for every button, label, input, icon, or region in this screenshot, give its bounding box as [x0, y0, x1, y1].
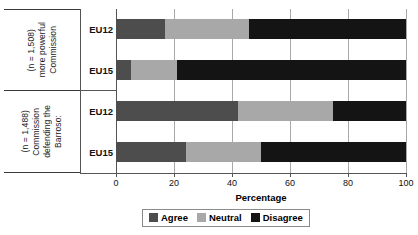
- legend-item-agree[interactable]: Agree: [149, 212, 188, 223]
- bar-segment-disagree: [177, 60, 406, 80]
- group-label-line: Barroso:: [53, 115, 64, 148]
- x-tick-label-80: 80: [343, 178, 353, 188]
- group-label-commission-more-powerful: Commission more powerful (n = 1,508): [4, 10, 80, 91]
- bar-segment-agree: [116, 60, 131, 80]
- group-label-axis: Commission more powerful (n = 1,508) Bar…: [4, 9, 80, 173]
- bar-segment-neutral: [238, 101, 334, 121]
- group-label-line: (n = 1,508): [26, 29, 37, 71]
- category-tick-label-0: EU12: [80, 24, 113, 35]
- bar-eu15-1: [116, 60, 406, 80]
- x-tick-100: [406, 173, 407, 177]
- bar-segment-disagree: [249, 19, 406, 39]
- gridline-100: [406, 9, 407, 173]
- group-label-line: (n = 1,488): [20, 110, 31, 152]
- legend-item-neutral[interactable]: Neutral: [197, 212, 242, 223]
- plot-area: [116, 9, 406, 173]
- category-tick-label-1: EU15: [80, 65, 113, 76]
- category-axis-divider: [81, 90, 117, 91]
- bar-segment-disagree: [261, 142, 406, 162]
- x-tick-60: [290, 173, 291, 177]
- legend-label-neutral: Neutral: [209, 212, 242, 223]
- bar-segment-neutral: [186, 142, 261, 162]
- legend: Agree Neutral Disagree: [142, 209, 310, 227]
- bar-eu12-0: [116, 19, 406, 39]
- x-tick-40: [232, 173, 233, 177]
- bar-segment-agree: [116, 101, 238, 121]
- legend-label-disagree: Disagree: [263, 212, 303, 223]
- category-tick-label-2: EU12: [80, 106, 113, 117]
- bar-segment-neutral: [165, 19, 249, 39]
- legend-swatch-disagree-icon: [251, 213, 260, 222]
- x-tick-0: [116, 173, 117, 177]
- legend-item-disagree[interactable]: Disagree: [251, 212, 303, 223]
- category-axis: EU12 EU15 EU12 EU15: [80, 9, 116, 173]
- bar-eu15-3: [116, 142, 406, 162]
- stacked-bar-chart: Commission more powerful (n = 1,508) Bar…: [0, 0, 418, 235]
- x-tick-label-20: 20: [169, 178, 179, 188]
- bar-segment-agree: [116, 19, 165, 39]
- x-tick-label-60: 60: [285, 178, 295, 188]
- x-tick-label-100: 100: [398, 178, 413, 188]
- bar-eu12-2: [116, 101, 406, 121]
- bar-segment-agree: [116, 142, 186, 162]
- category-tick-label-3: EU15: [80, 147, 113, 158]
- group-label-line: Commission: [31, 108, 42, 156]
- x-axis-line: [80, 173, 406, 174]
- x-tick-20: [174, 173, 175, 177]
- x-tick-label-0: 0: [113, 178, 118, 188]
- group-label-line: defending the: [42, 105, 53, 158]
- bar-segment-neutral: [131, 60, 177, 80]
- group-label-barroso-defending-the-commission: Barroso: defending the Commission (n = 1…: [4, 91, 80, 172]
- x-axis-title: Percentage: [116, 192, 406, 203]
- x-tick-label-40: 40: [227, 178, 237, 188]
- legend-label-agree: Agree: [161, 212, 188, 223]
- legend-swatch-agree-icon: [149, 213, 158, 222]
- x-tick-80: [348, 173, 349, 177]
- group-label-line: more powerful: [37, 22, 48, 77]
- bar-segment-disagree: [333, 101, 406, 121]
- group-label-line: Commission: [48, 26, 59, 74]
- legend-swatch-neutral-icon: [197, 213, 206, 222]
